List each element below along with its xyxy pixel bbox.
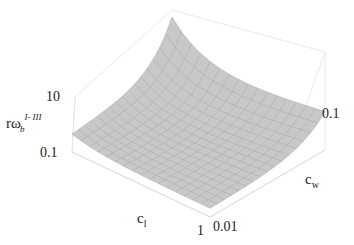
z-tick-10: 10 xyxy=(46,90,60,104)
x-tick-1: 1 xyxy=(197,224,204,238)
z-axis-label-base: rω xyxy=(6,115,21,131)
y-axis-label-base: c xyxy=(305,171,312,187)
y-tick-0.1: 0.1 xyxy=(322,107,340,121)
z-axis-label: rωbI- III xyxy=(6,116,42,131)
z-axis-label-sub: b xyxy=(20,124,25,134)
surface xyxy=(72,17,325,208)
y-axis-label-sub: w xyxy=(312,179,319,190)
x-axis-label-base: c xyxy=(137,210,144,226)
y-axis-label: cw xyxy=(305,172,319,187)
y-tick-0.01: 0.01 xyxy=(213,220,238,234)
z-tick-0.1: 0.1 xyxy=(40,146,58,160)
z-axis-label-sup: I- III xyxy=(24,112,41,122)
x-axis-label: cl xyxy=(137,211,146,226)
plot-canvas xyxy=(0,0,354,245)
